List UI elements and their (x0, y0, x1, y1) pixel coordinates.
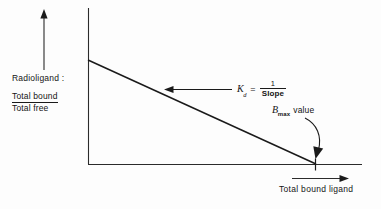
y-axis-label-numerator: Total bound (12, 91, 58, 103)
kd-fraction-numerator: 1 (260, 80, 287, 89)
kd-fraction: 1 Slope (260, 80, 287, 99)
bmax-word: value (293, 105, 314, 115)
kd-pointer-arrow-icon (164, 86, 232, 93)
bmax-annotation: Bmaxvalue (272, 104, 314, 116)
y-axis-label-fraction: Total bound Total free (12, 91, 58, 113)
kd-fraction-denominator: Slope (260, 89, 287, 98)
kd-subscript: d (243, 91, 246, 98)
kd-equation-annotation: Kd = 1 Slope (237, 80, 286, 99)
x-direction-arrow-icon (292, 175, 349, 182)
y-axis-label: Radioligand : Total bound Total free (12, 73, 86, 113)
scatchard-plot-figure: Radioligand : Total bound Total free Kd … (0, 0, 381, 209)
y-direction-arrow-icon (40, 9, 47, 70)
x-axis-label: Total bound ligand (279, 184, 353, 194)
y-axis-label-title: Radioligand : (12, 73, 86, 83)
y-axis-label-denominator: Total free (12, 103, 58, 114)
kd-symbol-group: Kd (237, 83, 247, 96)
kd-equals-sign: = (250, 84, 255, 95)
bmax-subscript: max (278, 111, 290, 117)
bmax-pointer-curved-arrow-icon (305, 118, 323, 159)
